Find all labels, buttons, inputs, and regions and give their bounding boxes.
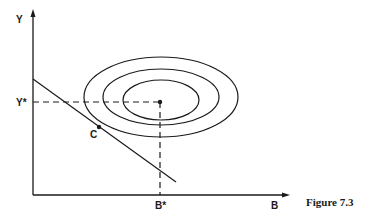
diagram: Y Y* C B* B Figure 7.3 bbox=[0, 0, 368, 217]
y-axis-arrow-icon bbox=[31, 9, 36, 17]
tangency-label: C bbox=[90, 129, 97, 140]
y-star-label: Y* bbox=[16, 97, 27, 108]
figure-caption: Figure 7.3 bbox=[306, 196, 354, 208]
tangency-point bbox=[97, 125, 101, 129]
middle-ellipse bbox=[103, 69, 219, 125]
optimum-point bbox=[158, 100, 162, 104]
b-star-label: B* bbox=[155, 200, 166, 211]
inner-ellipse bbox=[123, 80, 199, 120]
x-axis-arrow-icon bbox=[282, 193, 290, 198]
budget-line bbox=[33, 79, 176, 182]
x-axis-label: B bbox=[271, 200, 278, 211]
y-axis-label: Y bbox=[16, 14, 23, 25]
